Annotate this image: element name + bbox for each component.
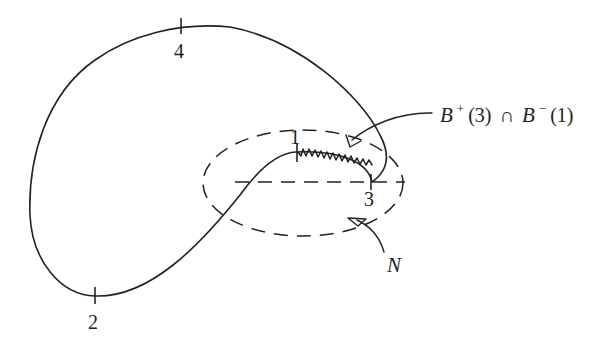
neighborhood-arrow [357,220,384,252]
orbit-diagram: 1 2 3 4 B + (3) ∩ B − (1) N [0,0,616,349]
intersection-label: B + (3) ∩ B − (1) [440,99,573,127]
label-cap: ∩ [500,104,514,126]
label-point-4: 4 [174,40,184,62]
label-point-3: 3 [364,188,374,210]
neighborhood-arrowhead-icon [348,218,366,226]
label-arg-1: (1) [550,104,573,127]
label-B-plus: B [440,103,453,127]
label-B-minus: B [522,103,535,127]
label-sup-plus: + [457,101,464,116]
label-point-2: 2 [88,311,98,333]
main-curve [30,26,387,296]
label-point-1: 1 [290,126,300,148]
neighborhood-ellipse [203,130,403,236]
label-arg-3: (3) [468,104,491,127]
label-neighborhood-N: N [386,253,402,277]
label-sup-minus: − [539,101,546,116]
intersection-arrow [352,113,432,140]
